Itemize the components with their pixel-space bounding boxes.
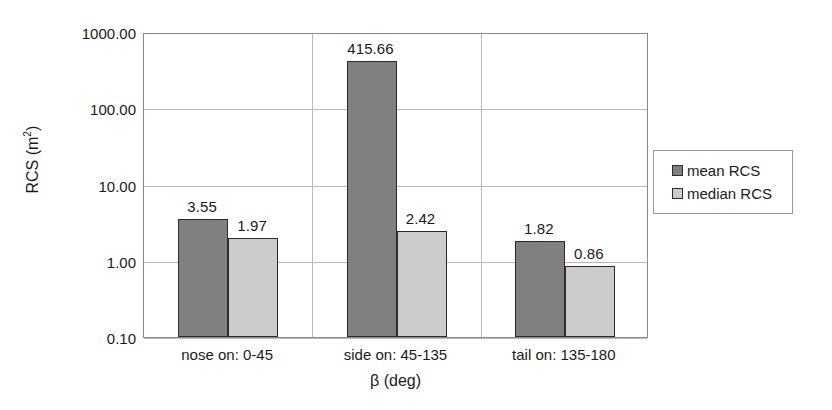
x-axis-tick-label: tail on: 135-180 <box>480 346 648 363</box>
y-axis-tick-label: 0.10 <box>36 330 136 347</box>
y-axis-tick-label: 1.00 <box>36 253 136 270</box>
legend-swatch-median <box>672 188 683 199</box>
y-axis-tick-label: 10.00 <box>36 177 136 194</box>
data-label: 1.82 <box>494 220 584 237</box>
data-label: 1.97 <box>207 217 297 234</box>
bar-median <box>397 231 447 337</box>
bar-mean <box>178 219 228 337</box>
data-label: 2.42 <box>376 210 466 227</box>
y-axis-ticks: 1000.00100.0010.001.000.10 <box>33 33 136 338</box>
x-axis-tick-label: nose on: 0-45 <box>143 346 311 363</box>
chart-root: RCS (m2) 1000.00100.0010.001.000.10 3.55… <box>0 0 832 410</box>
legend-item: mean RCS <box>654 159 792 182</box>
legend-label: median RCS <box>687 185 772 202</box>
legend-item: median RCS <box>654 182 792 205</box>
y-axis-title-exponent: 2 <box>22 131 33 137</box>
y-axis-tick-label: 1000.00 <box>36 25 136 42</box>
legend-swatch-mean <box>672 165 683 176</box>
bar-median <box>565 266 615 337</box>
bar-mean <box>347 61 397 337</box>
gridline <box>144 338 647 339</box>
y-axis-tick-label: 100.00 <box>36 101 136 118</box>
legend-label: mean RCS <box>687 162 760 179</box>
category-separator <box>481 34 482 337</box>
x-axis-title: β (deg) <box>143 372 648 390</box>
data-label: 3.55 <box>157 198 247 215</box>
bar-median <box>228 238 278 337</box>
legend: mean RCSmedian RCS <box>653 150 793 214</box>
data-label: 0.86 <box>544 245 634 262</box>
x-axis-tick-label: side on: 45-135 <box>311 346 479 363</box>
category-separator <box>312 34 313 337</box>
data-label: 415.66 <box>326 40 416 57</box>
plot-area <box>143 33 648 338</box>
